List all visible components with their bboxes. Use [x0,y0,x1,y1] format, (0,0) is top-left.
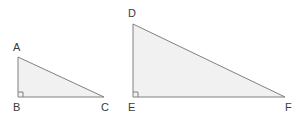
vertex-label-e: E [128,102,136,113]
vertex-label-d: D [128,8,136,19]
triangle-def [133,24,285,97]
triangle-abc [18,57,104,97]
vertex-label-a: A [13,42,21,53]
vertex-label-b: B [13,102,21,113]
triangle-def-body [133,24,285,97]
vertex-label-c: C [101,102,109,113]
triangle-abc-body [18,57,104,97]
triangles-svg [0,0,306,128]
geometry-figure: A B C D E F [0,0,306,128]
vertex-label-f: F [285,102,292,113]
